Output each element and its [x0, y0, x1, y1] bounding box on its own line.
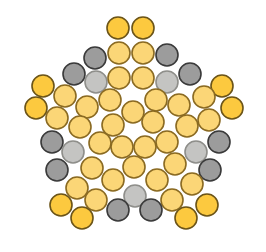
circle-light-yellow [181, 173, 203, 195]
circle-light-yellow [132, 42, 154, 64]
circle-light-gray [85, 71, 107, 93]
circle-dark-gray [179, 63, 201, 85]
circle-dark-gray [63, 63, 85, 85]
circle-light-yellow [156, 131, 178, 153]
circle-light-yellow [102, 169, 124, 191]
circle-cluster [0, 0, 266, 252]
circle-dark-gray [156, 44, 178, 66]
circle-packing-diagram [0, 0, 266, 252]
circle-light-yellow [132, 67, 154, 89]
circle-dark-gray [41, 131, 63, 153]
circle-bright-yellow [32, 75, 54, 97]
circle-dark-gray [107, 199, 129, 221]
circle-dark-gray [46, 159, 68, 181]
circle-bright-yellow [175, 207, 197, 229]
circle-bright-yellow [71, 207, 93, 229]
circle-bright-yellow [132, 17, 154, 39]
circle-dark-gray [208, 131, 230, 153]
circle-light-yellow [81, 157, 103, 179]
circle-bright-yellow [107, 17, 129, 39]
circle-light-yellow [108, 67, 130, 89]
circle-light-yellow [108, 42, 130, 64]
circle-light-yellow [164, 153, 186, 175]
circle-light-yellow [69, 116, 91, 138]
circle-light-yellow [99, 89, 121, 111]
circle-light-yellow [66, 177, 88, 199]
circle-light-yellow [145, 89, 167, 111]
circle-light-yellow [161, 189, 183, 211]
circle-light-yellow [168, 94, 190, 116]
circle-light-yellow [193, 86, 215, 108]
circle-bright-yellow [196, 194, 218, 216]
circle-light-yellow [85, 189, 107, 211]
circle-bright-yellow [221, 97, 243, 119]
circle-light-yellow [176, 115, 198, 137]
circle-dark-gray [199, 159, 221, 181]
circle-light-yellow [54, 85, 76, 107]
circle-light-yellow [89, 132, 111, 154]
circle-light-yellow [111, 136, 133, 158]
circle-dark-gray [140, 199, 162, 221]
circle-light-yellow [76, 96, 98, 118]
circle-bright-yellow [25, 97, 47, 119]
circle-light-yellow [146, 169, 168, 191]
circle-light-gray [62, 141, 84, 163]
circle-light-yellow [134, 136, 156, 158]
circle-light-yellow [142, 111, 164, 133]
circle-bright-yellow [50, 194, 72, 216]
circle-light-gray [185, 141, 207, 163]
circle-light-yellow [46, 107, 68, 129]
circle-light-yellow [122, 101, 144, 123]
circle-dark-gray [84, 47, 106, 69]
circle-light-yellow [123, 156, 145, 178]
circle-light-yellow [198, 109, 220, 131]
